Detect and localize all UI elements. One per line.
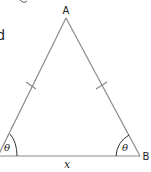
angle-label-right: θ bbox=[122, 142, 128, 153]
vertex-label-b: B bbox=[143, 151, 150, 162]
base-label-x: x bbox=[64, 158, 71, 171]
vertex-label-a: A bbox=[63, 5, 70, 16]
clipped-glyph-top bbox=[20, 0, 27, 2]
angle-label-left: θ bbox=[4, 142, 10, 153]
triangle-diagram: A B x θ θ bbox=[0, 0, 151, 172]
clipped-text-fragment: d bbox=[0, 28, 5, 42]
angle-arc-left bbox=[10, 134, 17, 156]
isosceles-triangle-figure: d A B x θ θ bbox=[0, 0, 151, 172]
